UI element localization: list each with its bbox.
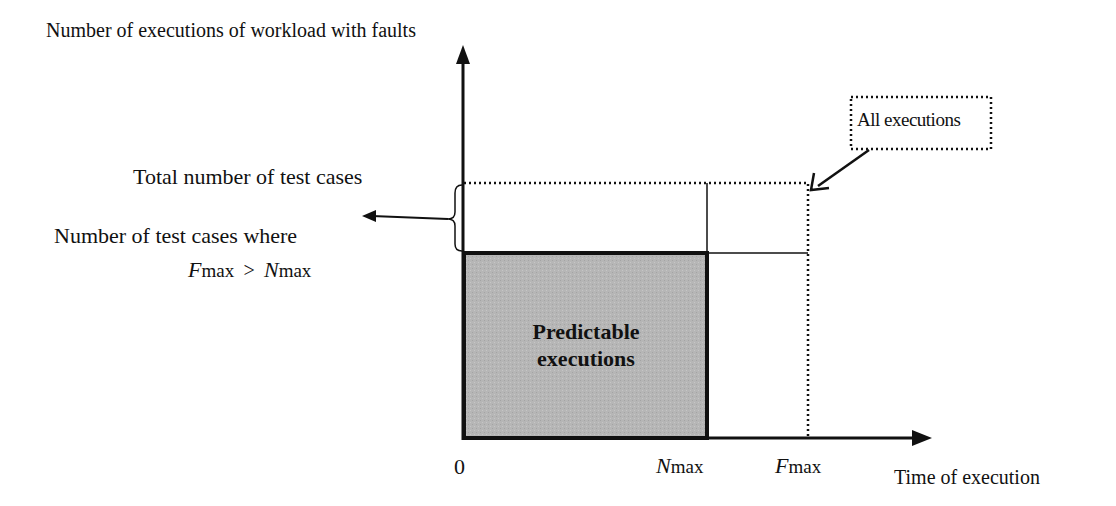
n-max-symbol: N — [656, 453, 671, 478]
n-max-subscript: max — [671, 456, 704, 477]
all-executions-label: All executions — [857, 110, 960, 129]
f-max-label: Fmax — [775, 455, 821, 477]
test-cases-where-label: Number of test cases where — [54, 225, 297, 247]
f-symbol: F — [188, 257, 201, 282]
origin-label: 0 — [454, 456, 465, 478]
predictable-line1: Predictable — [532, 318, 639, 346]
brace-arrow-line — [372, 216, 448, 219]
brace-icon — [448, 185, 462, 251]
predictable-line2: executions — [537, 345, 635, 373]
f-max-subscript: max — [788, 456, 821, 477]
n-subscript: max — [279, 260, 312, 281]
total-test-cases-label: Total number of test cases — [133, 166, 362, 188]
n-max-label: Nmax — [656, 455, 703, 477]
y-axis-arrow-icon — [456, 45, 470, 64]
x-axis-arrow-icon — [912, 430, 932, 446]
predictable-executions-label: Predictable executions — [466, 255, 706, 435]
x-axis-label: Time of execution — [894, 467, 1040, 487]
comparison-operator: > — [243, 259, 254, 281]
f-subscript: max — [201, 260, 234, 281]
brace-arrow-icon — [362, 210, 376, 222]
f-max-symbol: F — [775, 453, 788, 478]
y-axis-label: Number of executions of workload with fa… — [46, 20, 416, 40]
n-symbol: N — [264, 257, 279, 282]
all-executions-arrow-line — [818, 150, 869, 186]
condition-label: Fmax > Nmax — [188, 259, 311, 281]
